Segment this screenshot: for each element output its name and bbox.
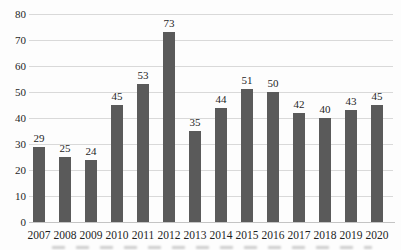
y-axis-tick-label: 0 [0, 215, 26, 229]
bar-2015 [241, 89, 253, 222]
bar-2020 [371, 105, 383, 222]
y-axis-tick-label: 70 [0, 33, 26, 47]
bar-value-label: 50 [258, 77, 288, 90]
gridline [29, 118, 393, 119]
bar-chart-canvas: 0102030405060708029200725200824200945201… [0, 0, 401, 250]
y-axis-tick-label: 10 [0, 189, 26, 203]
y-axis-tick-label: 80 [0, 7, 26, 21]
bar-value-label: 24 [76, 145, 106, 158]
bar-value-label: 45 [102, 90, 132, 103]
bar-2019 [345, 110, 357, 222]
bar-2007 [33, 147, 45, 222]
bar-value-label: 35 [180, 116, 210, 129]
gridline [29, 40, 393, 41]
bar-value-label: 53 [128, 69, 158, 82]
bar-value-label: 73 [154, 17, 184, 30]
x-axis-tick-label: 2020 [360, 228, 394, 242]
bar-value-label: 44 [206, 93, 236, 106]
bar-2018 [319, 118, 331, 222]
bar-value-label: 45 [362, 90, 392, 103]
y-axis-tick-label: 50 [0, 85, 26, 99]
x-axis-line [29, 222, 395, 223]
bar-2017 [293, 113, 305, 222]
bar-2016 [267, 92, 279, 222]
bar-2012 [163, 32, 175, 222]
bar-2008 [59, 157, 71, 222]
y-axis-tick-label: 40 [0, 111, 26, 125]
gridline [29, 196, 393, 197]
cropped-text-edge-artifact [52, 246, 372, 249]
y-axis-tick-label: 30 [0, 137, 26, 151]
y-axis-tick-label: 20 [0, 163, 26, 177]
gridline [29, 14, 393, 15]
bar-2013 [189, 131, 201, 222]
gridline [29, 66, 393, 67]
bar-2010 [111, 105, 123, 222]
bar-2011 [137, 84, 149, 222]
gridline [29, 170, 393, 171]
y-axis-tick-label: 60 [0, 59, 26, 73]
bar-2014 [215, 108, 227, 222]
bar-2009 [85, 160, 97, 222]
